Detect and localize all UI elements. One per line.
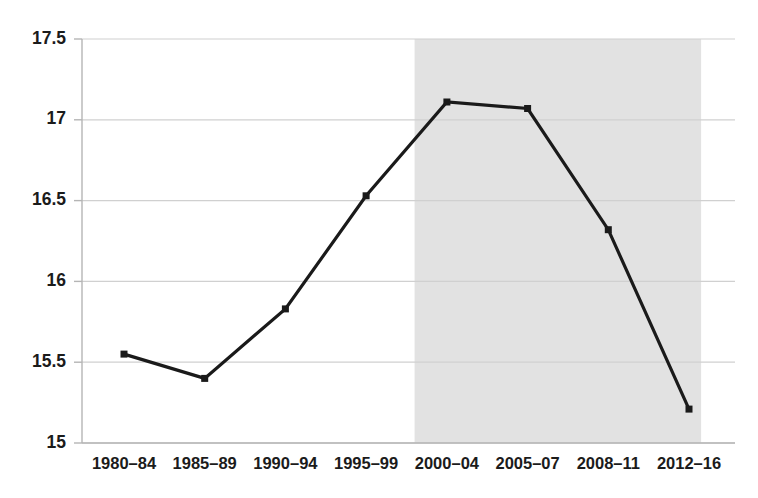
data-point-marker: 1995–99: 16.53 <box>363 192 370 199</box>
x-axis-tick-label: 1980–84 <box>92 454 157 472</box>
x-axis-tick-label: 2008–11 <box>577 454 640 472</box>
x-axis-tick-label: 2005–07 <box>495 454 559 472</box>
y-axis-tick-label: 16.5 <box>32 189 66 209</box>
x-axis-tick-label: 2000–04 <box>415 454 480 472</box>
data-point-marker: 2000–04: 17.11 <box>443 99 450 106</box>
shaded-period-band <box>415 39 701 443</box>
data-point-marker: 2005–07: 17.07 <box>524 105 531 112</box>
data-point-marker: 1990–94: 15.83 <box>282 305 289 312</box>
chart-container: 17.51716.51615.515 1980–84: 15.551985–89… <box>0 0 758 498</box>
x-axis-tick-label: 1990–94 <box>253 454 318 472</box>
data-point-marker: 2012–16: 15.21 <box>686 406 693 413</box>
x-axis-tick-label: 2012–16 <box>657 454 721 472</box>
data-point-marker: 1985–89: 15.4 <box>201 375 208 382</box>
data-point-marker: 1980–84: 15.55 <box>121 351 128 358</box>
y-axis-tick-label: 17 <box>47 108 66 128</box>
x-axis-tick-label: 1995–99 <box>334 454 398 472</box>
line-chart: 17.51716.51615.515 1980–84: 15.551985–89… <box>0 0 758 498</box>
y-axis-tick-label: 17.5 <box>32 28 66 48</box>
y-axis-tick-label: 15 <box>47 432 67 452</box>
y-axis-tick-label: 15.5 <box>32 351 66 371</box>
data-point-marker: 2008–11: 16.32 <box>605 226 612 233</box>
y-axis-tick-label: 16 <box>47 270 67 290</box>
x-axis-tick-label: 1985–89 <box>173 454 237 472</box>
